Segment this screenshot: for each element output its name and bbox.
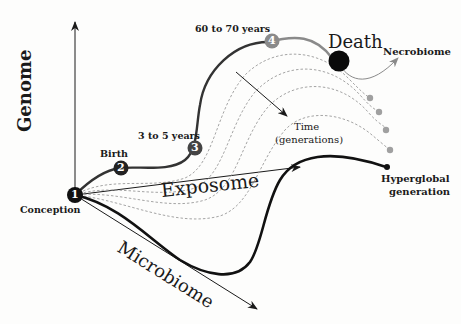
- time-arrow: [236, 72, 287, 116]
- death-label: Death: [328, 33, 383, 51]
- hyperglobal-label: Hyperglobal: [381, 174, 450, 184]
- hyperglobal-endpoint: [384, 164, 390, 170]
- generations-label: (generations): [275, 135, 343, 145]
- stage-3-number: 3: [191, 142, 199, 153]
- microbiome-axis: [75, 195, 257, 309]
- stage-1-number: 1: [71, 189, 79, 200]
- generation-label: generation: [389, 187, 450, 197]
- stage-2-number: 2: [117, 162, 125, 173]
- age-60-70-label: 60 to 70 years: [195, 24, 270, 34]
- conception-label: Conception: [20, 205, 81, 215]
- genome-label: Genome: [16, 50, 34, 132]
- necrobiome-label: Necrobiome: [383, 47, 451, 57]
- age-3-5-label: 3 to 5 years: [138, 131, 200, 141]
- birth-label: Birth: [100, 149, 128, 159]
- stage-4-number: 4: [268, 35, 276, 46]
- exposome-diagram: 1 2 3 4 Conception Birth 3 to 5 years 60…: [0, 0, 461, 324]
- death-marker: [329, 51, 350, 72]
- time-label: Time: [294, 122, 319, 132]
